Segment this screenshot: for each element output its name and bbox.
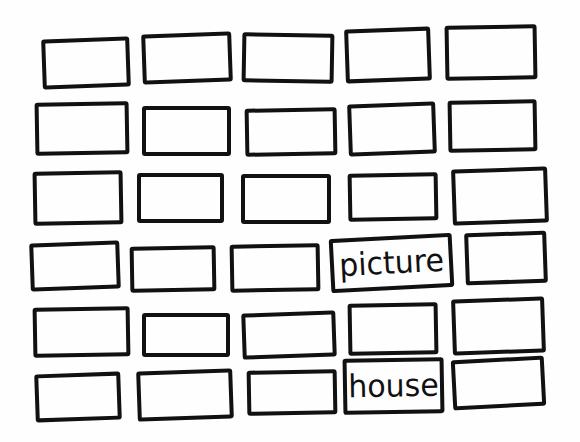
box-r5-c2 [142, 313, 230, 357]
box-r2-c3 [245, 107, 338, 157]
box-r2-c4 [347, 101, 437, 156]
box-r6-c1 [34, 372, 122, 423]
box-r2-c5 [448, 99, 538, 153]
box-r5-c1 [33, 306, 131, 358]
box-r1-c4 [344, 27, 432, 84]
box-r1-c5 [445, 24, 538, 81]
box-r5-c5 [451, 296, 546, 355]
box-r1-c1 [41, 36, 131, 89]
box-r5-c4 [348, 302, 439, 356]
box-r2-c1 [35, 101, 130, 156]
box-r3-c3 [241, 174, 331, 224]
box-label: house [348, 369, 439, 402]
box-r3-c2 [137, 173, 224, 223]
box-r4-c5 [464, 231, 548, 286]
box-r3-c1 [33, 170, 124, 226]
box-r1-c3 [242, 32, 335, 84]
box-r4-c3 [230, 243, 321, 293]
box-r3-c5 [451, 166, 549, 225]
box-r5-c3 [241, 310, 337, 359]
box-picture: picture [329, 233, 455, 293]
box-r3-c4 [348, 172, 439, 222]
box-label: picture [338, 245, 444, 282]
box-r6-c5 [451, 356, 546, 411]
box-r4-c1 [29, 240, 121, 291]
box-r6-c3 [247, 369, 338, 416]
box-r4-c2 [130, 245, 217, 292]
box-r2-c2 [142, 106, 231, 156]
brick-grid-diagram: picturehouse [0, 0, 580, 442]
box-r1-c2 [141, 31, 233, 84]
box-r6-c2 [136, 368, 234, 421]
box-house: house [343, 357, 445, 415]
